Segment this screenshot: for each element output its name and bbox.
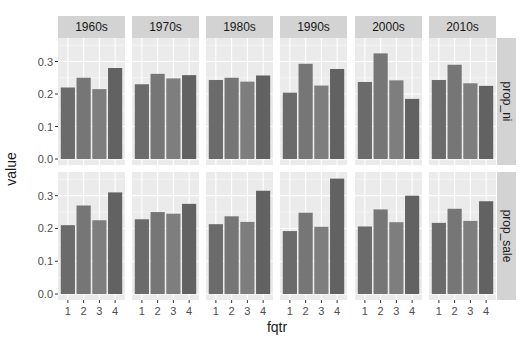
facet-strip-1970s: 1970s (132, 16, 199, 38)
bar-3 (240, 82, 254, 159)
panel-prop_sale-1980s: 1234 (206, 172, 273, 317)
svg-text:1960s: 1960s (75, 20, 108, 34)
bar-2 (77, 206, 91, 295)
facet-strip-2010s: 2010s (429, 16, 496, 38)
y-axis-prop_ni: 0.00.10.20.3 (38, 56, 58, 166)
bar-1 (432, 223, 446, 294)
panel-prop_sale-1990s: 1234 (280, 172, 347, 317)
bar-2 (225, 78, 239, 159)
y-axis-prop_sale: 0.00.10.20.3 (38, 190, 58, 300)
y-tick-label: 0.3 (38, 56, 53, 68)
chart-canvas: 1960s1970s1980s1990s2000s2010s0.00.10.20… (0, 0, 530, 352)
bar-3 (314, 227, 328, 294)
x-tick-label: 4 (334, 305, 340, 317)
bar-4 (405, 99, 419, 159)
y-tick-label: 0.2 (38, 222, 53, 234)
x-tick-label: 4 (409, 305, 415, 317)
bar-4 (256, 75, 270, 159)
bar-4 (479, 86, 493, 159)
x-tick-label: 4 (483, 305, 489, 317)
bar-4 (330, 179, 344, 294)
bar-2 (299, 64, 313, 159)
x-tick-label: 3 (318, 305, 324, 317)
bar-2 (225, 216, 239, 294)
x-tick-label: 2 (378, 305, 384, 317)
panel-prop_sale-2010s: 1234 (429, 172, 496, 317)
x-tick-label: 2 (303, 305, 309, 317)
x-tick-label: 3 (170, 305, 176, 317)
bar-2 (299, 213, 313, 294)
facet-strip-1960s: 1960s (58, 16, 125, 38)
bar-1 (283, 93, 297, 159)
x-tick-label: 3 (467, 305, 473, 317)
bar-1 (135, 84, 149, 159)
bar-3 (166, 78, 180, 159)
bar-2 (151, 212, 165, 294)
bar-2 (448, 209, 462, 294)
bar-1 (209, 80, 223, 159)
svg-text:1970s: 1970s (149, 20, 182, 34)
bar-3 (92, 89, 106, 159)
svg-text:1990s: 1990s (297, 20, 330, 34)
x-axis-title: fqtr (267, 319, 288, 335)
x-tick-label: 2 (155, 305, 161, 317)
y-tick-label: 0.0 (38, 153, 53, 165)
panel-prop_ni-1980s (206, 38, 273, 165)
panel-prop_ni-1970s (132, 38, 199, 165)
bar-4 (182, 204, 196, 294)
facet-strip-1990s: 1990s (280, 16, 347, 38)
x-tick-label: 1 (139, 305, 145, 317)
bar-2 (448, 65, 462, 159)
x-tick-label: 1 (213, 305, 219, 317)
svg-text:1980s: 1980s (223, 20, 256, 34)
bar-2 (374, 53, 388, 159)
faceted-bar-chart: fqtr value 1960s1970s1980s1990s2000s2010… (0, 0, 530, 352)
bar-1 (61, 225, 75, 294)
x-tick-label: 1 (362, 305, 368, 317)
panel-prop_ni-2010s (429, 38, 496, 165)
bar-3 (389, 222, 403, 294)
svg-text:prop_ni: prop_ni (500, 81, 514, 121)
bar-4 (182, 75, 196, 159)
bar-1 (61, 88, 75, 160)
bar-4 (256, 191, 270, 294)
panel-prop_ni-1990s (280, 38, 347, 165)
x-tick-label: 1 (287, 305, 293, 317)
y-tick-label: 0.3 (38, 190, 53, 202)
bar-1 (358, 82, 372, 159)
panel-prop_sale-2000s: 1234 (355, 172, 422, 317)
bar-2 (151, 74, 165, 159)
facet-strip-2000s: 2000s (355, 16, 422, 38)
x-tick-label: 1 (65, 305, 71, 317)
bar-1 (358, 226, 372, 294)
y-tick-label: 0.1 (38, 121, 53, 133)
bar-1 (283, 231, 297, 294)
x-tick-label: 4 (112, 305, 118, 317)
bar-3 (389, 80, 403, 159)
x-tick-label: 1 (436, 305, 442, 317)
x-tick-label: 2 (229, 305, 235, 317)
y-axis-title: value (3, 152, 19, 186)
panel-prop_sale-1960s: 1234 (58, 172, 125, 317)
y-tick-label: 0.1 (38, 255, 53, 267)
bar-4 (330, 69, 344, 159)
bar-3 (463, 83, 477, 159)
bar-3 (92, 220, 106, 294)
bar-3 (314, 86, 328, 159)
x-tick-label: 3 (96, 305, 102, 317)
svg-text:2010s: 2010s (446, 20, 479, 34)
panel-prop_ni-2000s (355, 38, 422, 165)
bar-2 (374, 209, 388, 294)
bar-4 (479, 201, 493, 294)
bar-2 (77, 78, 91, 159)
bar-1 (209, 224, 223, 294)
bar-3 (240, 222, 254, 294)
bar-3 (166, 214, 180, 294)
panel-prop_sale-1970s: 1234 (132, 172, 199, 317)
facet-strip-1980s: 1980s (206, 16, 273, 38)
bar-3 (463, 221, 477, 294)
y-tick-label: 0.2 (38, 88, 53, 100)
bar-4 (108, 192, 122, 294)
x-tick-label: 3 (393, 305, 399, 317)
facet-strip-prop_sale: prop_sale (497, 172, 516, 300)
